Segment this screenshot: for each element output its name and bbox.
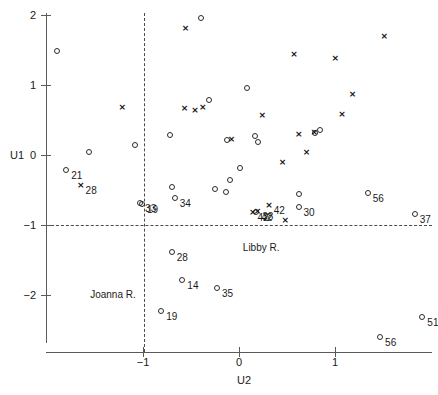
data-point-cross: ×	[181, 105, 188, 112]
scatter-plot: 210−1−2−101 2133193428141935423056375156…	[0, 0, 438, 395]
data-point-circle	[419, 314, 425, 320]
data-point-circle	[167, 132, 173, 138]
data-point-circle	[139, 201, 145, 207]
point-label: 35	[222, 289, 233, 299]
data-point-circle	[214, 285, 220, 291]
data-point-circle	[252, 133, 258, 139]
data-point-circle	[365, 190, 371, 196]
data-point-circle	[169, 184, 175, 190]
data-point-cross: ×	[279, 159, 286, 166]
data-point-circle	[179, 277, 185, 283]
data-point-cross: ×	[349, 91, 356, 98]
data-point-circle	[223, 189, 229, 195]
data-point-cross: ×	[295, 131, 302, 138]
y-axis-line	[46, 13, 47, 343]
data-point-circle	[172, 195, 178, 201]
x-tick-label-1: 1	[320, 357, 350, 368]
y-tick-label-2: 2	[8, 10, 36, 21]
point-label: 42	[257, 213, 268, 223]
y-tick-2	[41, 15, 51, 16]
data-point-cross: ×	[259, 112, 266, 119]
data-point-circle	[412, 211, 418, 217]
data-point-cross: ×	[332, 55, 339, 62]
y-tick-label--1: −1	[8, 220, 36, 231]
data-point-circle	[237, 165, 243, 171]
point-label: 30	[304, 208, 315, 218]
data-point-circle	[255, 139, 261, 145]
y-tick--1	[41, 225, 51, 226]
data-point-circle	[206, 97, 212, 103]
data-point-circle	[212, 186, 218, 192]
data-point-cross: ×	[282, 217, 289, 224]
data-point-circle	[54, 48, 60, 54]
point-label: 34	[180, 199, 191, 209]
data-point-cross: ×	[182, 25, 189, 32]
data-point-cross: ×	[118, 104, 125, 111]
data-point-cross: ×	[199, 104, 206, 111]
data-point-cross: ×	[228, 136, 235, 143]
data-point-circle	[63, 167, 69, 173]
point-label: 19	[166, 312, 177, 322]
data-point-circle	[296, 191, 302, 197]
data-point-cross: ×	[77, 182, 84, 189]
vertical-reference-line	[144, 13, 145, 352]
data-point-circle	[86, 149, 92, 155]
y-tick-0	[41, 155, 51, 156]
data-point-cross: ×	[290, 51, 297, 58]
data-point-cross: ×	[338, 111, 345, 118]
data-point-cross: ×	[303, 149, 310, 156]
data-point-cross: ×	[249, 209, 256, 216]
x-tick-label--1: −1	[128, 357, 158, 368]
data-point-cross: ×	[380, 33, 387, 40]
point-label: 37	[420, 215, 431, 225]
annotation-label: Joanna R.	[90, 290, 136, 300]
data-point-circle	[158, 308, 164, 314]
horizontal-reference-line	[46, 225, 432, 226]
y-tick-label--2: −2	[8, 290, 36, 301]
point-label: 28	[86, 186, 97, 196]
data-point-circle	[227, 177, 233, 183]
x-axis-title: U2	[224, 375, 264, 386]
data-point-circle	[377, 334, 383, 340]
data-point-circle	[198, 15, 204, 21]
data-point-cross: ×	[265, 202, 272, 209]
x-tick-label-0: 0	[224, 357, 254, 368]
annotation-label: Libby R.	[243, 243, 280, 253]
data-point-cross: ×	[191, 107, 198, 114]
point-label: 19	[147, 205, 158, 215]
data-point-circle	[296, 204, 302, 210]
point-label: 14	[187, 281, 198, 291]
data-point-circle	[169, 249, 175, 255]
y-tick-1	[41, 85, 51, 86]
data-point-circle	[244, 85, 250, 91]
point-label: 56	[385, 338, 396, 348]
point-label: 56	[373, 194, 384, 204]
y-axis-title: U1	[10, 150, 24, 161]
point-label: 28	[177, 253, 188, 263]
y-tick--2	[41, 295, 51, 296]
data-point-circle	[132, 142, 138, 148]
point-label: 51	[427, 318, 438, 328]
y-tick-label-1: 1	[8, 80, 36, 91]
data-point-cross: ×	[310, 129, 317, 136]
